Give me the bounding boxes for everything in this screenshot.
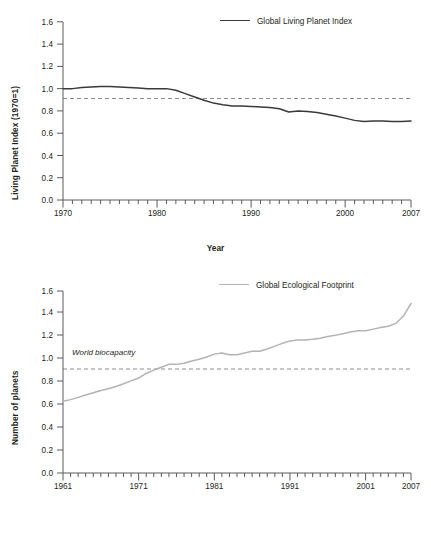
svg-text:0.0: 0.0 [42, 469, 54, 478]
top-chart-y-tick-labels: 0.0 0.2 0.4 0.6 0.8 1.0 1.2 1.4 1.6 [42, 18, 54, 205]
top-chart-x-ticks [63, 200, 411, 208]
legend-line-swatch [220, 20, 250, 21]
svg-text:1961: 1961 [54, 482, 73, 491]
svg-text:1.4: 1.4 [42, 40, 54, 49]
top-chart-x-axis-title: Year [0, 243, 431, 253]
svg-text:0.0: 0.0 [42, 196, 54, 205]
svg-text:1980: 1980 [148, 209, 167, 218]
svg-text:2007: 2007 [402, 482, 421, 491]
svg-text:0.8: 0.8 [42, 377, 54, 386]
legend-label: Global Ecological Footprint [256, 281, 354, 290]
svg-text:0.4: 0.4 [42, 423, 54, 432]
bottom-chart-y-tick-labels: 0.0 0.2 0.4 0.6 0.8 1.0 1.2 1.4 1.6 [42, 287, 54, 478]
svg-text:1.2: 1.2 [42, 62, 54, 71]
svg-text:0.4: 0.4 [42, 152, 54, 161]
svg-text:0.6: 0.6 [42, 129, 54, 138]
top-chart-x-tick-labels: 1970 1980 1990 2000 2007 [54, 209, 421, 218]
living-planet-index-chart: Living Planet Index (1970=1) Global Livi… [0, 0, 431, 265]
svg-text:1.0: 1.0 [42, 85, 54, 94]
svg-text:1.2: 1.2 [42, 331, 54, 340]
svg-text:1970: 1970 [54, 209, 73, 218]
bottom-chart-plot-area: 0.0 0.2 0.4 0.6 0.8 1.0 1.2 1.4 1.6 1961… [0, 265, 431, 539]
svg-text:1.6: 1.6 [42, 287, 54, 296]
svg-text:2007: 2007 [402, 209, 421, 218]
top-chart-plot-area: 0.0 0.2 0.4 0.6 0.8 1.0 1.2 1.4 1.6 1970… [0, 0, 431, 265]
svg-text:1990: 1990 [242, 209, 261, 218]
svg-text:1991: 1991 [281, 482, 300, 491]
svg-text:1981: 1981 [205, 482, 224, 491]
svg-text:2000: 2000 [336, 209, 355, 218]
bottom-chart-y-axis-title: Number of planets [10, 370, 20, 445]
top-chart-legend: Global Living Planet Index [220, 17, 352, 26]
svg-text:1.0: 1.0 [42, 354, 54, 363]
svg-text:1.6: 1.6 [42, 18, 54, 27]
world-biocapacity-annotation: World biocapacity [72, 348, 135, 357]
top-chart-y-axis-title: Living Planet Index (1970=1) [10, 86, 20, 200]
svg-text:0.2: 0.2 [42, 174, 54, 183]
svg-text:1971: 1971 [129, 482, 148, 491]
svg-text:2001: 2001 [356, 482, 375, 491]
top-chart-y-ticks [57, 22, 63, 200]
legend-line-swatch [219, 284, 249, 285]
ecological-footprint-chart: Number of planets Global Ecological Foot… [0, 265, 431, 539]
svg-text:0.2: 0.2 [42, 446, 54, 455]
svg-text:0.6: 0.6 [42, 400, 54, 409]
svg-text:0.8: 0.8 [42, 107, 54, 116]
svg-text:1.4: 1.4 [42, 308, 54, 317]
top-chart-series-line [63, 86, 411, 121]
bottom-chart-x-tick-labels: 1961 1971 1981 1991 2001 2007 [54, 482, 421, 491]
bottom-chart-y-ticks [57, 291, 63, 473]
bottom-chart-legend: Global Ecological Footprint [219, 281, 354, 290]
legend-label: Global Living Planet Index [257, 17, 352, 26]
bottom-chart-x-ticks [63, 473, 411, 481]
